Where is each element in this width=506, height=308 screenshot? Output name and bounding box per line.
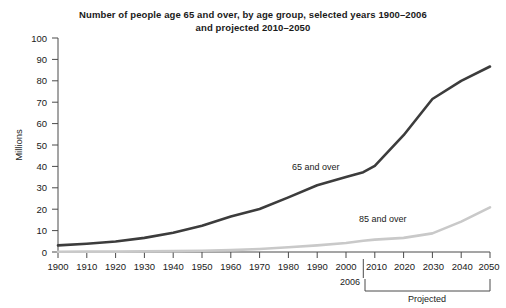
x-tick-label-2000: 2000 [335,261,356,272]
series-label-85-and-over: 85 and over [359,214,407,224]
y-tick-label-30: 30 [36,182,47,193]
y-axis-title: Millions [13,129,24,161]
x-axis-ticks [58,252,490,258]
footnote-text [2,298,502,308]
series-label-65-and-over: 65 and over [292,162,340,172]
x-tick-label-1930: 1930 [134,261,155,272]
series-line-85-and-over [58,207,490,252]
x-tick-label-1980: 1980 [278,261,299,272]
y-tick-label-70: 70 [36,97,47,108]
y-axis-ticks [52,38,58,252]
y-tick-label-60: 60 [36,118,47,129]
x-tick-label-1960: 1960 [220,261,241,272]
x-tick-label-1970: 1970 [249,261,270,272]
x-tick-label-2040: 2040 [452,261,473,272]
y-tick-label-100: 100 [31,33,47,44]
x-tick-label-1910: 1910 [76,261,97,272]
y-tick-label-10: 10 [36,225,47,236]
y-axis-tick-labels: 100 90 80 70 60 50 40 30 20 10 0 [31,33,47,258]
x-tick-label-1900: 1900 [47,261,68,272]
y-tick-label-50: 50 [36,140,47,151]
chart-figure: Number of people age 65 and over, by age… [0,0,506,308]
y-tick-label-40: 40 [36,161,47,172]
x-axis-tick-labels: 1900 1910 1920 1930 1940 1950 1960 1970 … [47,261,499,272]
series-line-65-and-over [58,67,490,246]
y-tick-label-90: 90 [36,54,47,65]
x-tick-label-2010: 2010 [366,261,387,272]
x-tick-label-1990: 1990 [307,261,328,272]
projected-bracket [365,279,490,291]
x-tick-label-1920: 1920 [105,261,126,272]
x-tick-label-2030: 2030 [423,261,444,272]
x-tick-label-1940: 1940 [163,261,184,272]
y-tick-label-20: 20 [36,204,47,215]
chart-canvas: 100 90 80 70 60 50 40 30 20 10 0 Million… [0,0,506,308]
x-tick-label-1950: 1950 [191,261,212,272]
x-tick-label-2020: 2020 [394,261,415,272]
x-tick-label-2050: 2050 [478,261,499,272]
y-tick-label-0: 0 [42,247,47,258]
projection-divider-label: 2006 [340,277,360,287]
y-tick-label-80: 80 [36,75,47,86]
